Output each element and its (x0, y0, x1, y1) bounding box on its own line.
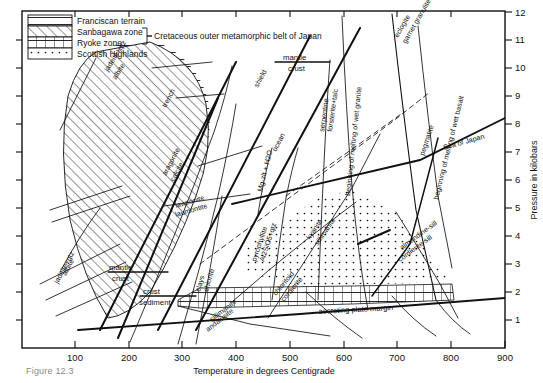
legend-label-sanbagawa-zone: Sanbagawa zone (77, 27, 143, 37)
legend-swatch-ryoke-zone (28, 37, 72, 48)
x-tick-label: 100 (67, 352, 83, 363)
x-tick-label: 500 (282, 352, 298, 363)
figure-caption: Figure 12.3 (26, 366, 74, 376)
y-tick-label: 6 (515, 174, 520, 185)
legend-bracket-note: Cretaceous outer metamorphic belt of Jap… (154, 31, 322, 41)
x-tick-label: 200 (121, 352, 137, 363)
label-crust-upper: crust (288, 64, 306, 73)
y-tick-label: 7 (515, 146, 520, 157)
figure-container: 100 200 300 400 500 600 700 800 900 Temp… (0, 0, 543, 383)
y-tick-label: 11 (515, 34, 525, 45)
y-tick-label: 2 (515, 286, 520, 297)
label-crust-left: crust (112, 274, 130, 283)
y-tick-label: 3 (515, 258, 520, 269)
label-mantle-upper: mantle (283, 53, 306, 62)
y-axis-label: Pressure in kilobars (529, 140, 539, 220)
y-tick-label: 8 (515, 118, 520, 129)
x-tick-labels: 100 200 300 400 500 600 700 800 900 (67, 352, 513, 363)
x-tick-label: 400 (228, 352, 244, 363)
legend-swatch-franciscan-terrain (28, 15, 72, 26)
label-crust-sediment-top: crust (143, 287, 161, 296)
label-sediment: sediment (139, 298, 171, 307)
y-tick-label: 12 (515, 7, 526, 18)
x-tick-label: 700 (389, 352, 405, 363)
x-tick-label: 600 (336, 352, 352, 363)
y-tick-label: 1 (515, 314, 520, 325)
x-tick-label: 800 (443, 352, 459, 363)
y-tick-label: 10 (515, 62, 526, 73)
legend-swatch-sanbagawa-zone (28, 26, 72, 37)
x-tick-label: 900 (497, 352, 513, 363)
label-mantle-left: mantle (109, 263, 132, 272)
x-axis-label: Temperature in degrees Centigrade (193, 366, 335, 376)
legend-swatch-scottish-highlands (28, 48, 72, 59)
y-tick-label: 9 (515, 90, 520, 101)
x-tick-label: 300 (174, 352, 190, 363)
pt-diagram-svg: 100 200 300 400 500 600 700 800 900 Temp… (0, 0, 543, 383)
legend-label-franciscan-terrain: Franciscan terrain (77, 16, 145, 26)
y-tick-label: 4 (515, 230, 520, 241)
y-tick-label: 5 (515, 202, 520, 213)
